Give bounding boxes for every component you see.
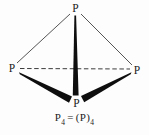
formula-lhs-subscript: 4 xyxy=(61,118,65,127)
molecule-diagram-p4-tetrahedron: P P P P P4=(P)4 xyxy=(0,0,149,135)
bond-right-bottom-wedge xyxy=(81,72,132,102)
formula-rhs-subscript: 4 xyxy=(90,118,94,127)
atom-label-right: P xyxy=(134,64,140,76)
equals-sign: = xyxy=(67,111,74,123)
atom-label-bottom: P xyxy=(73,97,79,109)
bond-left-bottom-wedge xyxy=(19,72,72,103)
bond-top-left xyxy=(17,14,70,63)
atom-label-top: P xyxy=(72,2,78,14)
atom-label-left: P xyxy=(9,62,15,74)
bond-top-bottom-wedge xyxy=(73,16,79,96)
formula-caption: P4=(P)4 xyxy=(0,111,149,126)
bond-top-right xyxy=(81,14,132,65)
tetrahedron-structure-svg: P P P P xyxy=(0,0,149,112)
formula-rhs: (P) xyxy=(76,111,90,123)
